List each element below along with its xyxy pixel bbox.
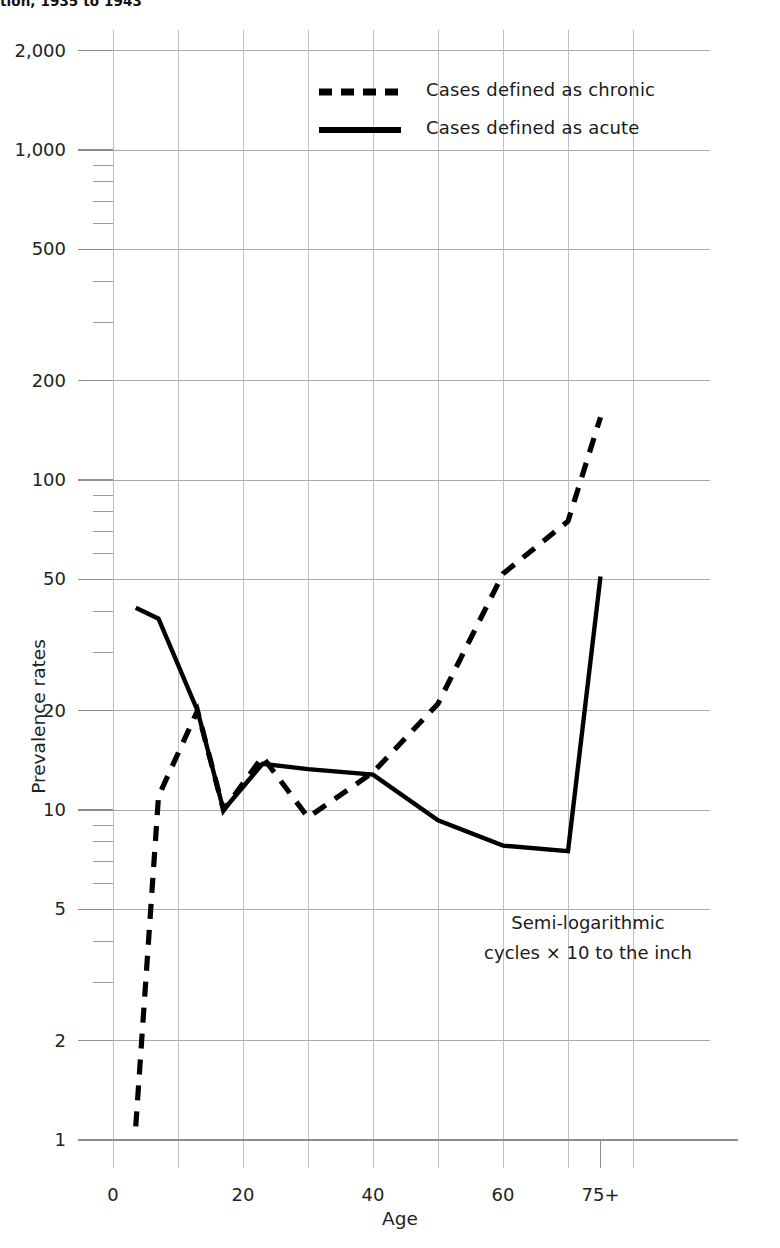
annotation-line-2: cycles × 10 to the inch	[438, 938, 738, 968]
x-tick-label: 75+	[566, 1184, 636, 1206]
legend-swatch-solid-icon	[318, 121, 402, 133]
y-tick-label: 200	[0, 370, 66, 392]
series-line-chronic	[136, 417, 601, 1126]
x-tick-label: 60	[468, 1184, 538, 1206]
y-tick-label: 100	[0, 469, 66, 491]
y-tick-label: 2	[0, 1030, 66, 1052]
minor-tick-group	[93, 165, 113, 982]
legend-label-acute: Cases defined as acute	[426, 117, 640, 138]
legend-label-chronic: Cases defined as chronic	[426, 79, 655, 100]
x-axis-title: Age	[340, 1208, 460, 1229]
y-tick-label: 1,000	[0, 139, 66, 161]
figure-container: tion, 1935 to 1943 2,0001,00050020010050…	[0, 0, 780, 1248]
chart-plot-area	[0, 0, 780, 1248]
y-tick-label: 500	[0, 238, 66, 260]
gridline-group	[78, 30, 738, 1168]
x-tick-label: 40	[338, 1184, 408, 1206]
y-tick-label: 1	[0, 1129, 66, 1151]
y-tick-label: 5	[0, 898, 66, 920]
legend-item-chronic: Cases defined as chronic	[318, 70, 698, 108]
y-tick-label: 50	[0, 568, 66, 590]
x-tick-label: 0	[78, 1184, 148, 1206]
y-tick-label: 2,000	[0, 40, 66, 62]
annotation-line-1: Semi-logarithmic	[438, 908, 738, 938]
y-axis-title: Prevalence rates	[28, 617, 49, 817]
legend-swatch-dashed-icon	[318, 83, 402, 95]
x-tick-label: 20	[208, 1184, 278, 1206]
data-series-group	[136, 417, 601, 1126]
legend-item-acute: Cases defined as acute	[318, 108, 698, 146]
chart-annotation: Semi-logarithmic cycles × 10 to the inch	[438, 908, 738, 968]
chart-legend: Cases defined as chronic Cases defined a…	[318, 70, 698, 146]
